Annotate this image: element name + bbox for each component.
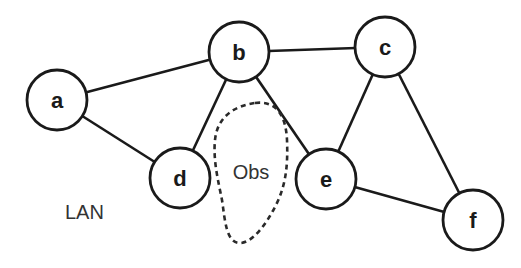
edges <box>57 47 473 220</box>
node-e-label: e <box>320 167 332 192</box>
node-a-label: a <box>51 88 64 113</box>
node-a[interactable]: a <box>27 70 87 130</box>
node-b[interactable]: b <box>209 22 269 82</box>
obstacle: Obs <box>215 103 288 243</box>
lan-label: LAN <box>65 201 104 223</box>
network-diagram: Obs LAN a b c d e f <box>0 0 521 268</box>
node-f-label: f <box>469 208 477 233</box>
node-f[interactable]: f <box>443 190 503 250</box>
node-d[interactable]: d <box>150 148 210 208</box>
node-d-label: d <box>173 166 186 191</box>
node-e[interactable]: e <box>296 149 356 209</box>
node-b-label: b <box>232 40 245 65</box>
node-c-label: c <box>379 35 391 60</box>
obstacle-label: Obs <box>233 161 270 183</box>
node-c[interactable]: c <box>355 17 415 77</box>
